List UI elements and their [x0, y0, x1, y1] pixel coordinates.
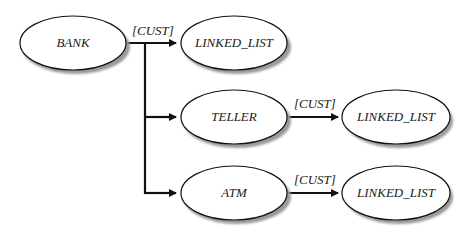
- node-teller[interactable]: TELLER: [181, 90, 291, 148]
- node-label: TELLER: [211, 109, 257, 124]
- node-atm[interactable]: ATM: [181, 166, 291, 224]
- node-linked-list-3[interactable]: LINKED_LIST: [342, 166, 453, 224]
- node-label: LINKED_LIST: [194, 35, 274, 50]
- node-label: ATM: [220, 185, 248, 200]
- node-label: LINKED_LIST: [356, 109, 436, 124]
- node-label: LINKED_LIST: [356, 185, 436, 200]
- node-bank[interactable]: BANK: [20, 16, 130, 74]
- edge-label-atm-ll3: [CUST]: [294, 172, 336, 187]
- diagram-canvas: [CUST] [CUST] [CUST] BANK LINKED_LIST TE…: [0, 0, 470, 233]
- node-label: BANK: [56, 35, 91, 50]
- node-linked-list-2[interactable]: LINKED_LIST: [342, 90, 453, 148]
- edge-label-teller-ll2: [CUST]: [294, 96, 336, 111]
- edge-label-bank-ll1: [CUST]: [132, 23, 174, 38]
- node-linked-list-1[interactable]: LINKED_LIST: [181, 16, 291, 74]
